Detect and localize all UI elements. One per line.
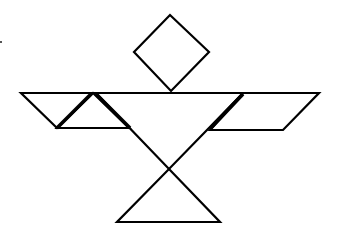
stray-mark	[0, 41, 2, 43]
left-thick-edge	[57, 94, 91, 128]
right-thick-edge	[210, 94, 243, 129]
head-square	[134, 15, 209, 91]
left-parallelogram-piece	[21, 93, 93, 128]
tangram-figure	[0, 0, 337, 232]
bottom-triangle	[117, 169, 220, 222]
left-small-triangle	[57, 93, 129, 128]
